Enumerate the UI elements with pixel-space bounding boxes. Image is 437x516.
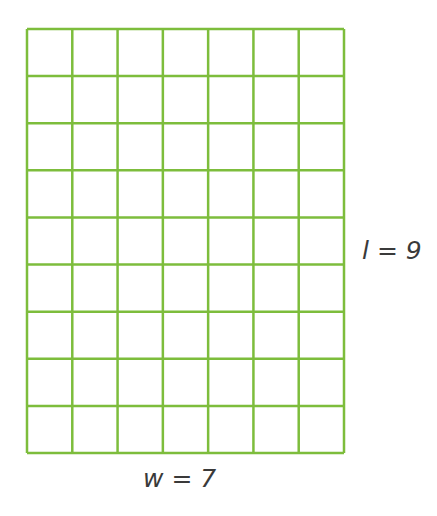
width-label: w = 7 bbox=[143, 464, 216, 493]
length-label: l = 9 bbox=[362, 236, 422, 265]
